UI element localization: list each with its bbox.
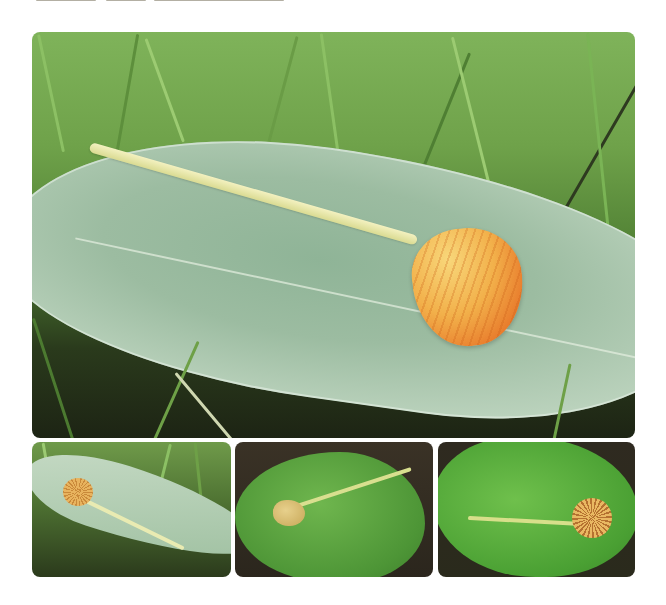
mushroom-cap bbox=[63, 478, 93, 506]
mushroom-cap bbox=[572, 498, 612, 538]
thumbnail-photo-2 bbox=[235, 442, 433, 577]
cropped-text-line bbox=[36, 0, 286, 4]
leaf bbox=[32, 442, 231, 577]
mushroom-cap bbox=[273, 500, 305, 526]
thumbnail-photo-3 bbox=[438, 442, 635, 577]
main-photo bbox=[32, 32, 635, 438]
thumbnail-photo-1 bbox=[32, 442, 231, 577]
